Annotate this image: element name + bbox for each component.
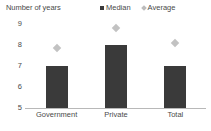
y-axis-tick-label: 5: [18, 104, 22, 112]
y-axis-tick-label: 9: [18, 20, 22, 28]
y-axis-title: Number of years: [6, 3, 61, 12]
chart-legend: Median Average: [100, 4, 175, 12]
x-axis-tick-label: Government: [36, 111, 77, 119]
diamond-marker-icon-private[interactable]: [112, 24, 120, 32]
bar-government[interactable]: [46, 66, 68, 108]
plot-area: [27, 24, 205, 108]
legend-label-average: Average: [148, 4, 176, 12]
x-axis-tick-label: Total: [167, 111, 183, 119]
x-axis-tick-label: Private: [104, 111, 127, 119]
diamond-marker-icon: [141, 5, 147, 11]
y-axis-tick-label: 8: [18, 41, 22, 49]
y-axis-tick-label: 7: [18, 62, 22, 70]
y-axis-tick-label: 6: [18, 83, 22, 91]
y-axis: 56789: [0, 24, 27, 108]
legend-entry-median[interactable]: Median: [100, 4, 131, 12]
x-axis-line: [25, 108, 206, 109]
bar-total[interactable]: [164, 66, 186, 108]
diamond-marker-icon-total[interactable]: [171, 39, 179, 47]
bar-private[interactable]: [105, 45, 127, 108]
square-marker-icon: [100, 6, 104, 10]
diamond-marker-icon-government[interactable]: [52, 44, 60, 52]
legend-entry-average[interactable]: Average: [142, 4, 176, 12]
x-axis: GovernmentPrivateTotal: [27, 111, 205, 127]
chart-container: Number of years Median Average 56789 Gov…: [0, 0, 211, 131]
legend-label-median: Median: [106, 4, 131, 12]
